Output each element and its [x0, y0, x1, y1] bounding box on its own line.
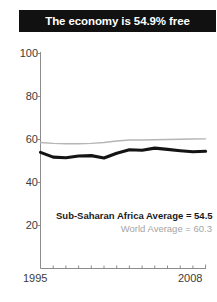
chart-svg — [0, 40, 217, 280]
y-tick-marks — [36, 54, 41, 226]
x-tick-start-year: 1995 — [23, 272, 47, 284]
x-tick-marks — [41, 265, 206, 269]
page-title: The economy is 54.9% free — [45, 15, 190, 27]
series-line-world-average — [41, 139, 206, 144]
chart-page: The economy is 54.9% free 100 80 60 40 2… — [0, 0, 217, 302]
chart-legend: Sub-Saharan Africa Average = 54.5 World … — [56, 209, 212, 235]
chart-title-banner: The economy is 54.9% free — [19, 10, 216, 32]
x-tick-end-year: 2008 — [178, 272, 202, 284]
legend-label-subsaharan-africa: Sub-Saharan Africa Average = 54.5 — [56, 209, 212, 222]
plot-area — [0, 40, 217, 280]
series-line-subsaharan-africa — [41, 148, 206, 158]
legend-label-world-average: World Average = 60.3 — [56, 222, 212, 235]
